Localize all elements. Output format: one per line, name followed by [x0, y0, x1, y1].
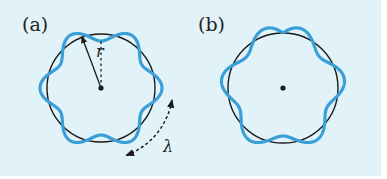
panel-b-label: (b) [198, 13, 225, 35]
wavelength-label: λ [162, 137, 173, 156]
panel-b: (b) [198, 13, 345, 143]
center-dot-a [98, 85, 103, 90]
radius-label: r [96, 42, 105, 61]
panel-a: (a) r λ [22, 13, 173, 156]
standing-wave-b [221, 28, 344, 143]
figure-canvas: (a) r λ (b) [0, 0, 387, 179]
panel-a-label: (a) [22, 13, 48, 35]
center-dot-b [280, 85, 285, 90]
